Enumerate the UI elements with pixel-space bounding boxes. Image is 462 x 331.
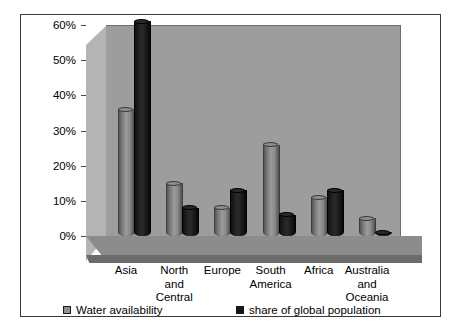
bar-top-ellipse <box>359 216 374 221</box>
bar-water-availability <box>118 109 133 236</box>
x-category-label: AustraliaandOceania <box>336 264 398 305</box>
category-separator <box>152 255 153 263</box>
category-separator <box>200 255 201 263</box>
chart-frame: 0%10%20%30%40%50%60% AsiaNorthandCentral… <box>20 14 441 317</box>
legend-swatch-icon <box>236 306 244 314</box>
bar-water-availability <box>311 197 326 236</box>
bar-share-of-global-population <box>375 232 390 236</box>
bar-top-ellipse <box>263 142 278 147</box>
bar-body <box>359 218 376 236</box>
bar-share-of-global-population <box>134 21 149 236</box>
x-category-label-line: Australia <box>336 264 398 278</box>
legend-item: Water availability <box>63 304 163 316</box>
bar-body <box>327 190 344 236</box>
bar-top-ellipse <box>311 195 326 200</box>
x-category-label-line: America <box>240 278 302 292</box>
category-separator <box>345 255 346 263</box>
bar-body <box>279 215 296 236</box>
bar-body <box>230 190 247 236</box>
bar-body <box>166 183 183 236</box>
bar-group <box>166 25 200 236</box>
x-category-label-line: and <box>143 278 205 292</box>
plot-region: 0%10%20%30%40%50%60% <box>21 15 442 270</box>
legend-label: share of global population <box>249 304 381 316</box>
bar-water-availability <box>214 208 229 236</box>
bar-share-of-global-population <box>230 190 245 236</box>
category-separator <box>249 255 250 263</box>
bar-water-availability <box>263 145 278 236</box>
legend-swatch-icon <box>63 306 71 314</box>
bar-group <box>118 25 152 236</box>
bars-layer <box>21 15 442 270</box>
bar-top-ellipse <box>375 230 390 235</box>
bar-water-availability <box>359 218 374 236</box>
bar-top-ellipse <box>166 181 181 186</box>
bar-top-ellipse <box>327 188 342 193</box>
chart-legend: Water availabilityshare of global popula… <box>21 302 442 318</box>
bar-body <box>214 208 231 236</box>
bar-body <box>134 21 151 236</box>
category-separator <box>297 255 298 263</box>
legend-item: share of global population <box>236 304 381 316</box>
bar-body <box>311 197 328 236</box>
bar-top-ellipse <box>134 19 149 24</box>
bar-share-of-global-population <box>327 190 342 236</box>
legend-label: Water availability <box>76 304 163 316</box>
bar-group <box>311 25 345 236</box>
bar-group <box>263 25 297 236</box>
bar-group <box>359 25 393 236</box>
bar-top-ellipse <box>118 107 133 112</box>
bar-body <box>182 208 199 236</box>
bar-body <box>118 109 135 236</box>
x-category-label-line: and <box>336 278 398 292</box>
bar-group <box>214 25 248 236</box>
bar-top-ellipse <box>230 188 245 193</box>
bar-body <box>263 145 280 236</box>
bar-share-of-global-population <box>182 208 197 236</box>
bar-share-of-global-population <box>279 215 294 236</box>
bar-water-availability <box>166 183 181 236</box>
